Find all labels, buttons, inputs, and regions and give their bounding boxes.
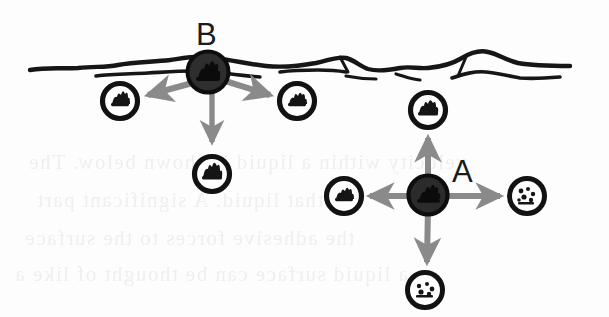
label-molecule-b: B [196, 19, 217, 50]
molecule-A [409, 176, 448, 215]
diagram-canvas [0, 0, 609, 317]
arrow-B-right [222, 80, 270, 95]
molecule-B [188, 52, 229, 93]
neighbor-A-above [411, 93, 446, 128]
neighbor-B-left [103, 84, 138, 119]
neighbor-A-right [510, 179, 545, 214]
molecule-surface-tension-figure: velocity within a liquid is shown below.… [0, 0, 609, 317]
neighbor-A-left [327, 179, 362, 214]
neighbor-B-below [195, 157, 230, 192]
liquid-surface-line [30, 51, 570, 80]
label-molecule-a: A [452, 156, 473, 187]
neighbor-B-right [280, 84, 315, 119]
neighbor-A-below [408, 273, 443, 308]
